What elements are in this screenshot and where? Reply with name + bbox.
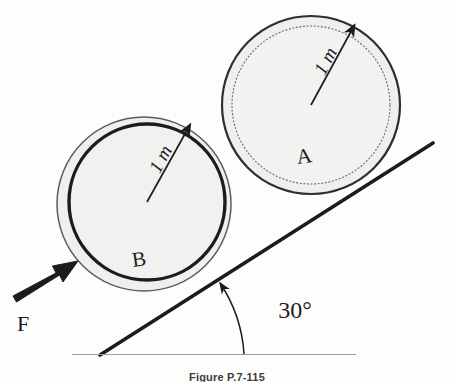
angle-arc <box>220 283 244 354</box>
figure-svg: 1 m A 1 m B 30° F <box>0 0 454 382</box>
force-arrow <box>13 261 78 302</box>
figure-container: 1 m A 1 m B 30° F Figure P.7-115 <box>0 0 454 382</box>
force-arrow-group: F <box>13 261 78 336</box>
figure-caption: Figure P.7-115 <box>0 371 454 382</box>
force-label: F <box>17 311 29 336</box>
cylinder-a-group: 1 m A <box>222 16 400 194</box>
angle-label: 30° <box>278 297 312 323</box>
cylinder-b-group: 1 m B <box>57 117 231 291</box>
